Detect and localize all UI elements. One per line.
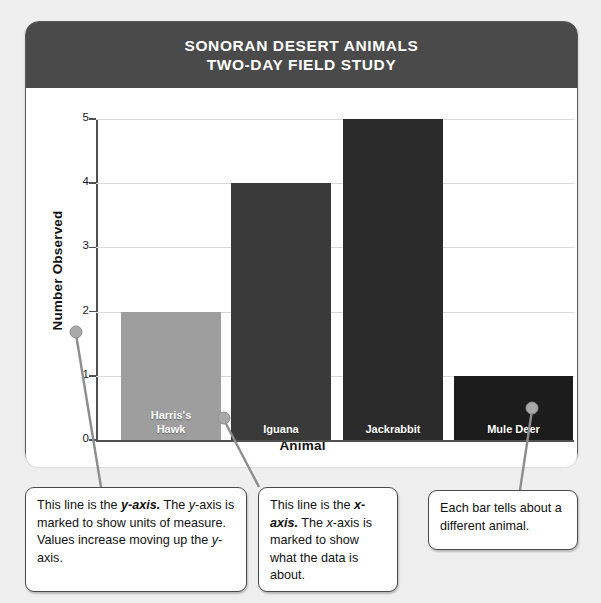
- y-tick-3: [89, 247, 96, 249]
- callout-segment: This line is the: [37, 498, 121, 512]
- bar-label: Mule Deer: [487, 423, 540, 441]
- bar-iguana[interactable]: Iguana: [231, 183, 331, 440]
- chart-card: SONORAN DESERT ANIMALS TWO-DAY FIELD STU…: [25, 21, 578, 466]
- y-tick-label-4: 4: [69, 175, 89, 187]
- y-tick-label-0: 0: [69, 432, 89, 444]
- bar-label: Jackrabbit: [365, 423, 420, 441]
- chart-title-line-1: SONORAN DESERT ANIMALS: [185, 36, 419, 55]
- x-axis-callout-text: This line is the x-axis. The x-axis is m…: [270, 497, 386, 585]
- y-tick-label-5: 5: [69, 111, 89, 123]
- chart-title-line-2: TWO-DAY FIELD STUDY: [207, 55, 397, 74]
- bars-callout-text: Each bar tells about a different animal.: [440, 500, 566, 535]
- y-tick-label-3: 3: [69, 239, 89, 251]
- y-axis-callout-text: This line is the y-axis. The y-axis is m…: [37, 497, 235, 567]
- bar-harris-s-hawk[interactable]: Harris'sHawk: [121, 312, 221, 440]
- y-tick-2: [89, 311, 96, 313]
- y-tick-0: [89, 439, 96, 441]
- y-tick-4: [89, 182, 96, 184]
- plot-area: Number Observed Animal 012345 Harris'sHa…: [26, 88, 577, 467]
- callout-segment: The: [298, 516, 326, 530]
- card-header: SONORAN DESERT ANIMALS TWO-DAY FIELD STU…: [26, 22, 577, 88]
- bars-callout: Each bar tells about a different animal.: [428, 490, 578, 550]
- bar-jackrabbit[interactable]: Jackrabbit: [343, 119, 443, 440]
- bar-label: Iguana: [263, 423, 298, 441]
- y-axis-callout: This line is the y-axis. The y-axis is m…: [25, 487, 247, 592]
- bar-mule-deer[interactable]: Mule Deer: [454, 376, 573, 440]
- callout-segment: The: [160, 498, 188, 512]
- plot-canvas: 012345 Harris'sHawkIguanaJackrabbitMule …: [96, 119, 574, 440]
- y-tick-5: [89, 118, 96, 120]
- callout-segment: y-axis.: [121, 498, 160, 512]
- callout-segment: Each bar tells about a different animal.: [440, 501, 562, 533]
- y-tick-1: [89, 375, 96, 377]
- x-axis-line: [96, 440, 574, 442]
- y-tick-label-1: 1: [69, 368, 89, 380]
- infographic-stage: SONORAN DESERT ANIMALS TWO-DAY FIELD STU…: [0, 0, 601, 603]
- x-axis-callout: This line is the x-axis. The x-axis is m…: [258, 487, 398, 592]
- callout-segment: This line is the: [270, 498, 354, 512]
- y-axis-label: Number Observed: [50, 191, 65, 351]
- y-tick-label-2: 2: [69, 304, 89, 316]
- bar-series: Harris'sHawkIguanaJackrabbitMule Deer: [96, 119, 574, 440]
- bar-label: Harris'sHawk: [151, 409, 192, 440]
